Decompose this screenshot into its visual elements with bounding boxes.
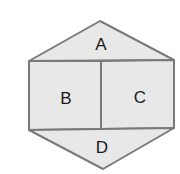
hexagon-diagram: A B C D <box>0 0 180 174</box>
region-d-label: D <box>96 138 108 157</box>
region-a-label: A <box>95 35 107 54</box>
region-c-label: C <box>134 88 146 107</box>
region-b-label: B <box>60 89 71 108</box>
